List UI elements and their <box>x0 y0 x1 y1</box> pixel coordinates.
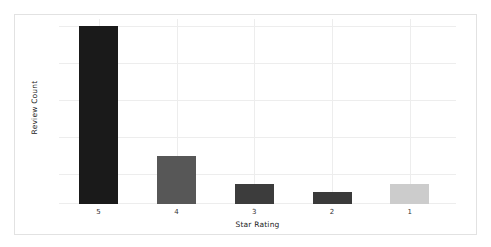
x-tick-label: 2 <box>302 208 362 216</box>
x-tick-label: 5 <box>69 208 129 216</box>
gridline-horizontal <box>59 100 456 101</box>
bar-rating-1[interactable] <box>390 184 429 204</box>
bar-chart-figure: Review Count 5 4 3 2 1 Star Rating <box>14 14 477 235</box>
x-tick-label: 1 <box>380 208 440 216</box>
bar-rating-4[interactable] <box>157 156 196 204</box>
plot-area: 5 4 3 2 1 Star Rating <box>59 19 456 204</box>
gridline-horizontal <box>59 26 456 27</box>
x-tick-label: 3 <box>224 208 284 216</box>
gridline-horizontal <box>59 137 456 138</box>
bar-rating-2[interactable] <box>313 192 352 204</box>
x-axis-label: Star Rating <box>59 220 456 229</box>
gridline-horizontal <box>59 174 456 175</box>
gridline-vertical <box>332 19 333 204</box>
y-axis-label-text: Review Count <box>31 81 40 135</box>
gridline-horizontal <box>59 63 456 64</box>
gridline-vertical <box>254 19 255 204</box>
y-axis-label: Review Count <box>29 15 41 200</box>
x-tick-label: 4 <box>147 208 207 216</box>
bar-rating-5[interactable] <box>79 26 118 204</box>
bar-rating-3[interactable] <box>235 184 274 204</box>
gridline-vertical <box>410 19 411 204</box>
